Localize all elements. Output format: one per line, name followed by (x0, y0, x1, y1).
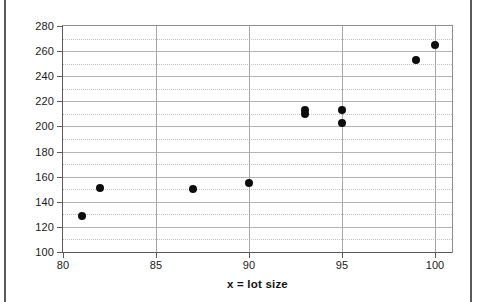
x-axis-title: x = lot size (62, 278, 453, 290)
scatter-plot-figure: 1001201401601802002202402602808085909510… (0, 0, 485, 302)
y-axis-tick (57, 152, 63, 153)
gridline-horizontal-minor (63, 139, 452, 140)
y-axis-tick (57, 177, 63, 178)
y-axis-tick (57, 51, 63, 52)
x-axis-tick (435, 252, 436, 258)
x-axis-tick-label: 85 (150, 259, 162, 271)
data-point (78, 212, 86, 220)
gridline-horizontal-minor (63, 89, 452, 90)
y-axis-tick-label: 120 (35, 221, 54, 233)
gridline-horizontal (63, 177, 452, 178)
gridline-horizontal-minor (63, 39, 452, 40)
data-point (96, 184, 104, 192)
x-axis-tick-label: 90 (243, 259, 255, 271)
gridline-horizontal-minor (63, 189, 452, 190)
plot-area: 1001201401601802002202402602808085909510… (62, 25, 453, 253)
gridline-horizontal (63, 227, 452, 228)
data-point (338, 119, 346, 127)
gridline-horizontal-minor (63, 114, 452, 115)
gridline-vertical (156, 26, 157, 252)
data-point (301, 106, 309, 114)
y-axis-tick-label: 180 (35, 146, 54, 158)
gridline-vertical (435, 26, 436, 252)
gridline-vertical (342, 26, 343, 252)
y-axis-tick-label: 260 (35, 45, 54, 57)
x-axis-tick-label: 100 (426, 259, 445, 271)
y-axis-tick (57, 76, 63, 77)
x-axis-tick (63, 252, 64, 258)
gridline-horizontal-minor (63, 164, 452, 165)
x-axis-tick-label: 95 (336, 259, 348, 271)
gridline-horizontal (63, 51, 452, 52)
gridline-horizontal-minor (63, 214, 452, 215)
gridline-horizontal (63, 202, 452, 203)
left-margin-rule (4, 0, 6, 302)
y-axis-tick (57, 101, 63, 102)
gridline-horizontal (63, 76, 452, 77)
gridline-horizontal (63, 126, 452, 127)
y-axis-tick-label: 100 (35, 246, 54, 258)
x-axis-tick (342, 252, 343, 258)
y-axis-tick-label: 240 (35, 70, 54, 82)
x-axis-tick (249, 252, 250, 258)
y-axis-tick (57, 202, 63, 203)
x-axis-tick-label: 80 (57, 259, 69, 271)
data-point (245, 179, 253, 187)
data-point (431, 41, 439, 49)
gridline-horizontal-minor (63, 64, 452, 65)
gridline-horizontal-minor (63, 239, 452, 240)
right-margin-rule (470, 0, 472, 302)
y-axis-tick (57, 227, 63, 228)
y-axis-tick-label: 200 (35, 120, 54, 132)
x-axis-tick (156, 252, 157, 258)
y-axis-tick-label: 160 (35, 171, 54, 183)
gridline-horizontal (63, 152, 452, 153)
gridline-vertical (249, 26, 250, 252)
y-axis-tick (57, 26, 63, 27)
y-axis-tick (57, 126, 63, 127)
y-axis-tick-label: 280 (35, 20, 54, 32)
data-point (189, 185, 197, 193)
gridline-horizontal (63, 101, 452, 102)
y-axis-tick-label: 220 (35, 95, 54, 107)
y-axis-tick-label: 140 (35, 196, 54, 208)
